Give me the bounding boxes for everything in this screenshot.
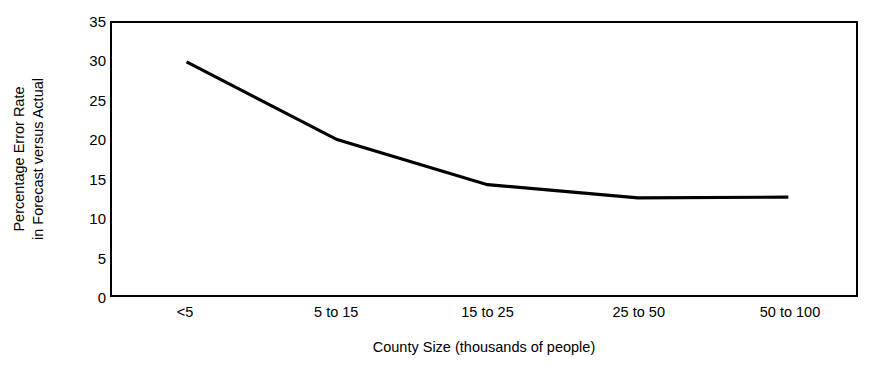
x-axis-tick-label: 5 to 15 xyxy=(314,303,358,321)
y-axis-title-text: Percentage Error Rate in Forecast versus… xyxy=(10,78,48,240)
y-axis-tick-label: 25 xyxy=(64,92,106,107)
x-axis-tick-label: 50 to 100 xyxy=(760,303,820,321)
y-axis-title-line-1: Percentage Error Rate xyxy=(10,78,29,240)
y-axis-tick-label: 5 xyxy=(64,250,106,265)
y-axis-tick-label: 30 xyxy=(64,53,106,68)
x-axis-title: County Size (thousands of people) xyxy=(110,338,858,356)
y-axis-tick-label: 10 xyxy=(64,211,106,226)
y-axis-title-line-2: in Forecast versus Actual xyxy=(29,78,48,240)
y-axis-tick-label: 15 xyxy=(64,171,106,186)
chart-figure: Percentage Error Rate in Forecast versus… xyxy=(0,0,878,379)
x-axis-tick-labels: <55 to 1515 to 2525 to 5050 to 100 xyxy=(0,303,878,325)
x-axis-tick-label: 25 to 50 xyxy=(613,303,665,321)
x-axis-tick-label: <5 xyxy=(177,303,194,321)
y-axis-tick-label: 35 xyxy=(64,14,106,29)
x-axis-tick-label: 15 to 25 xyxy=(461,303,513,321)
y-axis-tick-label: 20 xyxy=(64,132,106,147)
data-line xyxy=(187,62,789,198)
line-series-svg xyxy=(112,23,856,295)
plot-area xyxy=(110,21,858,297)
y-axis-title: Percentage Error Rate in Forecast versus… xyxy=(0,0,58,318)
